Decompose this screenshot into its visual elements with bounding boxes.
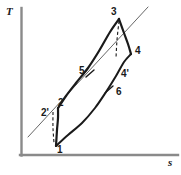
dashed-line-2p-to-1 — [53, 112, 54, 143]
state-label-1: 1 — [57, 145, 63, 155]
state-label-4p: 4' — [121, 69, 129, 79]
x-axis-label: s — [168, 157, 172, 168]
curve-exhaust-1-6-4p-4 — [56, 54, 131, 146]
y-axis-label: T — [6, 6, 13, 17]
state-label-2: 2 — [58, 98, 64, 108]
diagram-canvas — [0, 0, 181, 175]
curve-compression-1-2 — [56, 108, 58, 146]
state-label-5: 5 — [79, 66, 85, 76]
curve-tick-marks-group — [86, 70, 113, 93]
dashed-lines-group — [53, 21, 119, 143]
state-label-3: 3 — [111, 7, 117, 17]
state-label-4: 4 — [135, 46, 141, 56]
state-label-2p: 2' — [41, 108, 49, 118]
curve-heat-addition-2-5-3 — [58, 19, 119, 108]
ts-diagram-figure: T s 122'344'56 — [0, 0, 181, 175]
state-label-6: 6 — [116, 87, 122, 97]
axes-group — [20, 8, 178, 156]
